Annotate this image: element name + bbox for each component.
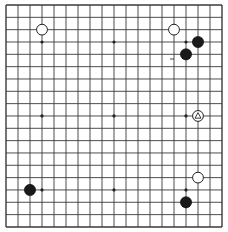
white-stone[interactable] (193, 111, 204, 122)
go-board[interactable] (0, 0, 228, 232)
white-stone[interactable] (193, 172, 204, 183)
star-point (112, 188, 115, 191)
white-stone[interactable] (169, 24, 180, 35)
star-point (40, 114, 43, 117)
star-point (184, 40, 187, 43)
black-stone[interactable] (192, 36, 203, 47)
black-stone[interactable] (180, 197, 191, 208)
black-stone[interactable] (24, 184, 35, 195)
black-stone[interactable] (180, 49, 191, 60)
star-point (112, 40, 115, 43)
star-point (40, 40, 43, 43)
white-stone[interactable] (37, 24, 48, 35)
star-point (40, 188, 43, 191)
star-point (184, 188, 187, 191)
star-point (112, 114, 115, 117)
star-point (184, 114, 187, 117)
